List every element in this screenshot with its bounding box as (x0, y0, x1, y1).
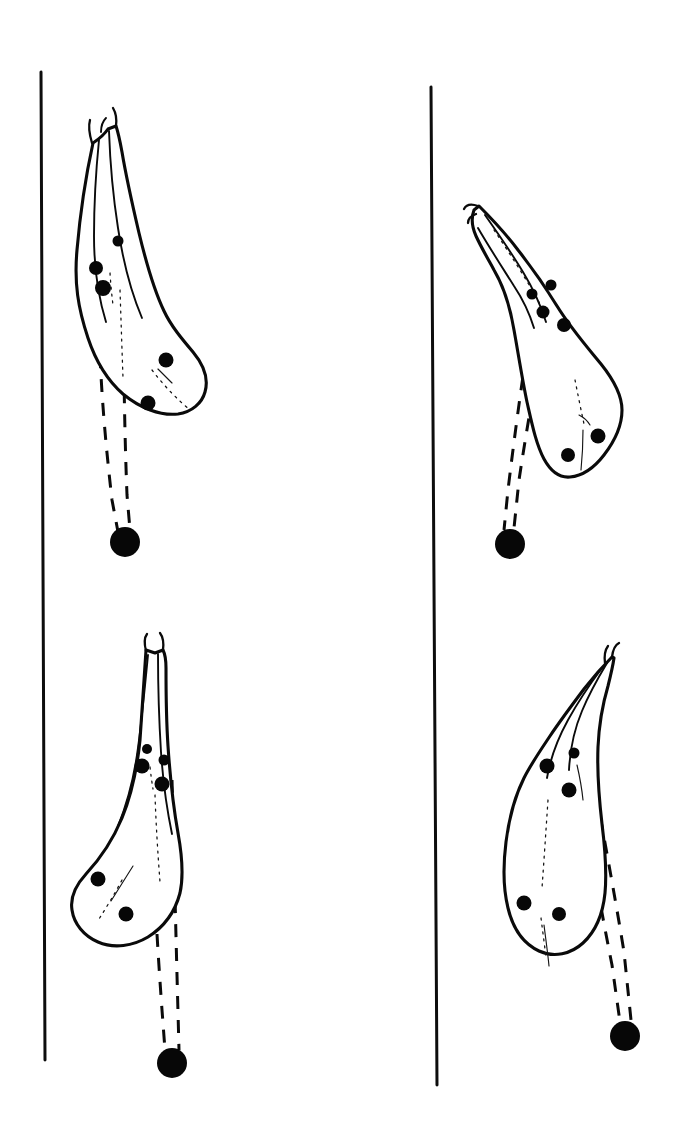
anchor-dot (495, 529, 525, 559)
spot (591, 429, 606, 444)
spot (527, 289, 538, 300)
spot (119, 907, 134, 922)
spot (562, 783, 577, 798)
spot (537, 306, 550, 319)
spot (142, 744, 152, 754)
illustration-plate (0, 0, 682, 1125)
spot (517, 896, 532, 911)
spot (113, 236, 124, 247)
spot (159, 353, 174, 368)
spot (546, 280, 557, 291)
spot (561, 448, 575, 462)
spot (155, 777, 170, 792)
anchor-dot (610, 1021, 640, 1051)
spot (95, 280, 111, 296)
anchor-dot (110, 527, 140, 557)
spot (159, 755, 170, 766)
spot (552, 907, 566, 921)
spot (135, 759, 150, 774)
anchor-dot (157, 1048, 187, 1078)
spot (91, 872, 106, 887)
spot (89, 261, 103, 275)
spot (569, 748, 580, 759)
spot (540, 759, 555, 774)
spot (141, 396, 156, 411)
plate-canvas (0, 0, 682, 1125)
spot (557, 318, 571, 332)
